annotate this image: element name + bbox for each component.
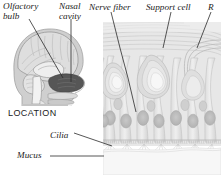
label-location: LOCATION <box>8 108 57 118</box>
cell-nucleus <box>205 111 216 125</box>
label-nasal-cavity-line2: cavity <box>59 11 81 21</box>
cell-nucleus <box>114 98 122 109</box>
label-cilia: Cilia <box>50 130 68 140</box>
cell-nucleus <box>181 99 189 110</box>
label-olfactory-bulb: Olfactory bulb <box>3 1 38 21</box>
cell-nucleus <box>199 101 207 111</box>
label-olfactory-bulb-line1: Olfactory <box>3 1 38 11</box>
olfactory-system-figure <box>0 0 221 175</box>
label-mucus: Mucus <box>17 150 42 160</box>
cell-nucleus <box>137 111 148 126</box>
label-nasal-cavity-line1: Nasal <box>59 1 81 11</box>
label-nerve-fiber: Nerve fiber <box>89 2 131 12</box>
cell-nucleus <box>147 101 155 112</box>
lamina-propria <box>103 22 221 32</box>
cell-nucleus <box>121 114 132 128</box>
tongue <box>48 99 74 104</box>
cell-nucleus <box>154 114 164 128</box>
cell-nucleus <box>170 111 181 126</box>
label-support-cell: Support cell <box>146 2 191 12</box>
oral-cavity <box>48 93 77 100</box>
label-nasal-cavity: Nasal cavity <box>59 1 81 21</box>
label-olfactory-bulb-line2: bulb <box>3 11 38 21</box>
epithelium-panel <box>96 22 221 175</box>
nasal-cavity-region <box>49 74 84 92</box>
label-receptor-cell: R <box>208 2 214 12</box>
cell-nucleus <box>188 114 198 128</box>
